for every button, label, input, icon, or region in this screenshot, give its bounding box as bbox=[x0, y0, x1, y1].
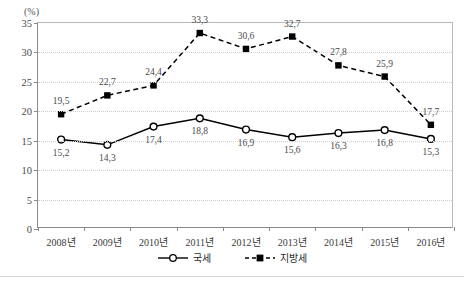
legend-label-national-tax: 국세 bbox=[193, 250, 211, 265]
legend-item-national-tax[interactable]: 국세 bbox=[158, 250, 211, 265]
gridline bbox=[38, 52, 452, 53]
data-point-value-label: 18,8 bbox=[191, 126, 208, 136]
data-point-value-label: 16,9 bbox=[238, 138, 255, 148]
data-point-value-label: 30,6 bbox=[238, 31, 255, 41]
legend-marker-open-circle-icon bbox=[158, 252, 188, 264]
x-axis-tick bbox=[269, 227, 270, 231]
data-point-filled-square-icon[interactable] bbox=[289, 33, 295, 39]
x-axis-tick bbox=[454, 227, 455, 231]
y-axis-tick-label: 20 bbox=[22, 106, 33, 117]
data-point-filled-square-icon[interactable] bbox=[335, 62, 341, 68]
data-point-open-circle-icon[interactable] bbox=[104, 141, 111, 148]
data-point-value-label: 22,7 bbox=[99, 77, 116, 87]
x-axis-tick-label: 2012년 bbox=[232, 234, 261, 249]
data-point-filled-square-icon[interactable] bbox=[104, 92, 110, 98]
data-point-value-label: 24,4 bbox=[145, 67, 162, 77]
data-point-filled-square-icon[interactable] bbox=[243, 46, 249, 52]
data-point-filled-square-icon[interactable] bbox=[381, 73, 387, 79]
x-axis-tick-label: 2008년 bbox=[47, 234, 76, 249]
data-point-open-circle-icon[interactable] bbox=[243, 126, 250, 133]
bottom-divider bbox=[0, 276, 464, 277]
x-axis-tick bbox=[315, 227, 316, 231]
series-lines bbox=[38, 23, 454, 229]
data-point-value-label: 14,3 bbox=[99, 153, 116, 163]
data-point-open-circle-icon[interactable] bbox=[335, 130, 342, 137]
y-axis-tick bbox=[34, 82, 38, 83]
data-point-open-circle-icon[interactable] bbox=[196, 115, 203, 122]
y-axis-tick-label: 30 bbox=[22, 47, 33, 58]
x-axis-tick-label: 2010년 bbox=[139, 234, 168, 249]
legend-item-local-tax[interactable]: 지방세 bbox=[245, 250, 307, 265]
data-point-open-circle-icon[interactable] bbox=[150, 123, 157, 130]
y-axis-tick bbox=[34, 23, 38, 24]
data-point-value-label: 15,2 bbox=[53, 148, 70, 158]
plot-area: 051015202530352008년2009년2010년2011년2012년2… bbox=[37, 22, 453, 228]
legend-marker-filled-square-icon bbox=[245, 252, 275, 264]
y-axis-tick-label: 0 bbox=[27, 224, 32, 235]
x-axis-tick bbox=[177, 227, 178, 231]
data-point-value-label: 32,7 bbox=[284, 19, 301, 29]
y-axis-tick bbox=[34, 170, 38, 171]
y-axis-tick-label: 5 bbox=[27, 194, 32, 205]
y-axis-tick bbox=[34, 200, 38, 201]
x-axis-tick bbox=[84, 227, 85, 231]
gridline bbox=[38, 111, 452, 112]
data-point-value-label: 27,8 bbox=[330, 47, 347, 57]
legend-label-local-tax: 지방세 bbox=[280, 250, 307, 265]
y-axis-tick bbox=[34, 52, 38, 53]
data-point-filled-square-icon[interactable] bbox=[428, 122, 434, 128]
x-axis-tick-label: 2009년 bbox=[93, 234, 122, 249]
y-axis-tick-label: 10 bbox=[22, 165, 33, 176]
data-point-value-label: 17,7 bbox=[423, 107, 440, 117]
data-point-filled-square-icon[interactable] bbox=[197, 30, 203, 36]
x-axis-tick bbox=[362, 227, 363, 231]
y-axis-tick-label: 25 bbox=[22, 76, 33, 87]
data-point-open-circle-icon[interactable] bbox=[381, 127, 388, 134]
data-point-value-label: 17,4 bbox=[145, 135, 162, 145]
data-point-filled-square-icon[interactable] bbox=[150, 82, 156, 88]
chart-root: (%) 051015202530352008년2009년2010년2011년20… bbox=[0, 0, 464, 285]
data-point-value-label: 19,5 bbox=[53, 96, 70, 106]
y-axis-unit-label: (%) bbox=[24, 6, 39, 17]
x-axis-tick bbox=[408, 227, 409, 231]
data-point-value-label: 25,9 bbox=[376, 59, 393, 69]
y-axis-tick-label: 15 bbox=[22, 135, 33, 146]
y-axis-tick bbox=[34, 141, 38, 142]
x-axis-tick-label: 2013년 bbox=[278, 234, 307, 249]
data-point-value-label: 33,3 bbox=[191, 15, 208, 25]
gridline bbox=[38, 200, 452, 201]
data-point-open-circle-icon[interactable] bbox=[58, 136, 65, 143]
data-point-value-label: 16,8 bbox=[376, 138, 393, 148]
x-axis-tick bbox=[130, 227, 131, 231]
x-axis-tick bbox=[38, 227, 39, 231]
y-axis-tick-label: 35 bbox=[22, 18, 33, 29]
data-point-value-label: 15,6 bbox=[284, 145, 301, 155]
x-axis-tick-label: 2015년 bbox=[370, 234, 399, 249]
chart-legend: 국세 지방세 bbox=[0, 250, 464, 265]
data-point-value-label: 15,3 bbox=[423, 147, 440, 157]
data-point-open-circle-icon[interactable] bbox=[289, 134, 296, 141]
data-point-value-label: 16,3 bbox=[330, 141, 347, 151]
x-axis-tick-label: 2011년 bbox=[185, 234, 214, 249]
y-axis-tick bbox=[34, 111, 38, 112]
x-axis-tick-label: 2016년 bbox=[416, 234, 445, 249]
x-axis-tick-label: 2014년 bbox=[324, 234, 353, 249]
x-axis-tick bbox=[223, 227, 224, 231]
gridline bbox=[38, 170, 452, 171]
